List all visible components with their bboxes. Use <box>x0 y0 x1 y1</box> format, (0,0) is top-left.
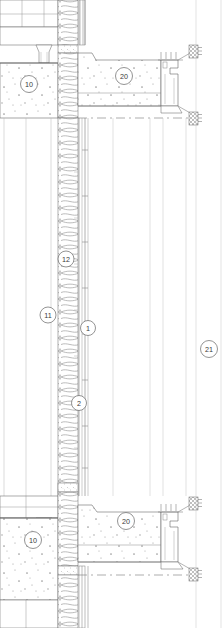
callout-10-upper-label: 10 <box>25 80 33 89</box>
callout-20-lower-label: 20 <box>122 517 130 526</box>
insulation-upper-2 <box>58 53 78 118</box>
callout-12-label: 12 <box>62 255 70 264</box>
lower-spandrel-concrete <box>78 505 161 562</box>
insulation-upper <box>58 0 78 45</box>
callout-2[interactable]: 2 <box>72 396 87 411</box>
rigid-board-lower-top <box>58 483 78 492</box>
callout-20-upper[interactable]: 20 <box>116 68 133 85</box>
callout-11[interactable]: 11 <box>40 307 56 323</box>
callout-1[interactable]: 1 <box>81 321 96 336</box>
callout-10-lower-label: 10 <box>29 536 37 545</box>
rigid-board-upper <box>58 45 78 53</box>
callout-21[interactable]: 21 <box>201 341 218 358</box>
drawing-canvas: 10 20 12 11 1 2 21 10 <box>0 0 222 628</box>
callout-20-upper-label: 20 <box>120 72 128 81</box>
callout-20-lower[interactable]: 20 <box>118 513 135 530</box>
callout-10-upper[interactable]: 10 <box>21 76 38 93</box>
wall-section-svg: 10 20 12 11 1 2 21 10 <box>0 0 222 628</box>
callout-2-label: 2 <box>77 399 81 408</box>
insulation-lower-2 <box>58 575 78 628</box>
insulation-lower <box>58 492 78 566</box>
callout-10-lower[interactable]: 10 <box>25 532 42 549</box>
rigid-board-lower <box>58 566 78 575</box>
callout-21-label: 21 <box>205 345 213 354</box>
callout-1-label: 1 <box>86 324 90 333</box>
lower-floor-slab <box>0 518 58 600</box>
callout-12[interactable]: 12 <box>58 251 74 267</box>
callout-11-label: 11 <box>44 311 51 320</box>
insulation-cavity <box>58 118 78 496</box>
